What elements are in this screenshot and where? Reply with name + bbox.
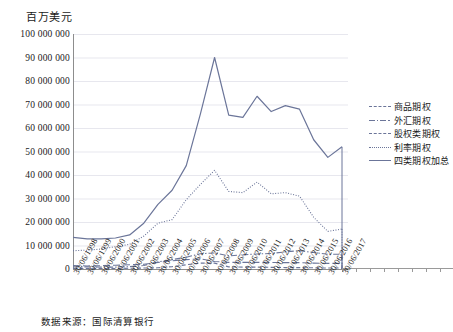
y-axis-tick-label: 40 000 000 <box>25 170 70 180</box>
y-axis-tick-label: 10 000 000 <box>25 241 70 251</box>
legend-label: 四类期权加总 <box>391 154 449 167</box>
legend-swatch <box>369 102 391 112</box>
y-axis-tick-label: 50 000 000 <box>25 147 70 157</box>
legend-swatch <box>369 129 391 139</box>
legend-swatch <box>369 156 391 166</box>
chart-figure: 百万美元 010 000 00020 000 00030 000 00040 0… <box>0 0 453 332</box>
legend-swatch <box>369 142 391 152</box>
y-axis-tick-label: 80 000 000 <box>25 76 70 86</box>
legend-label: 外汇期权 <box>391 114 431 127</box>
chart-legend: 商品期权外汇期权股权类期权利率期权四类期权加总 <box>369 100 453 168</box>
legend-item: 商品期权 <box>369 100 453 114</box>
legend-item: 外汇期权 <box>369 114 453 128</box>
source-note: 数据来源：国际清算银行 <box>41 314 154 328</box>
chart-canvas <box>73 34 348 270</box>
y-axis-tick-label: 30 000 000 <box>25 194 70 204</box>
legend-label: 利率期权 <box>391 141 431 154</box>
legend-item: 股权类期权 <box>369 127 453 141</box>
plot-area <box>73 34 342 269</box>
y-axis-tick-label: 20 000 000 <box>25 217 70 227</box>
series-line <box>73 58 342 239</box>
x-axis-labels: 30/06/199830/06/199930/06/200030/06/2001… <box>0 269 453 315</box>
legend-swatch <box>369 115 391 125</box>
y-axis-tick-label: 90 000 000 <box>25 53 70 63</box>
legend-label: 商品期权 <box>391 100 431 113</box>
y-axis-tick-label: 70 000 000 <box>25 100 70 110</box>
legend-item: 四类期权加总 <box>369 154 453 168</box>
y-axis-tick-label: 60 000 000 <box>25 123 70 133</box>
legend-item: 利率期权 <box>369 141 453 155</box>
legend-label: 股权类期权 <box>391 127 440 140</box>
y-axis-tick-label: 100 000 000 <box>20 29 70 39</box>
